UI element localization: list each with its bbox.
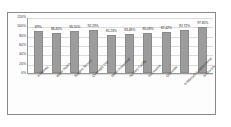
bar[interactable] xyxy=(125,34,134,73)
bar-value-label: 97.85% xyxy=(197,22,208,26)
bar-slot: 89% xyxy=(29,18,47,73)
x-axis-slot: N-Grocery xyxy=(194,75,212,115)
bar[interactable] xyxy=(162,32,171,73)
x-axis-slot: Support Service xyxy=(65,75,83,115)
bar[interactable] xyxy=(70,31,79,73)
bar-value-label: 85.08% xyxy=(142,28,153,32)
y-axis-tick: 20% xyxy=(10,62,26,66)
y-axis-tick: 40% xyxy=(10,53,26,57)
bar[interactable] xyxy=(34,31,43,73)
bar-value-label: 92.72% xyxy=(179,25,190,29)
x-axis: K-MukwaWater RatesSupport ServiceOvernig… xyxy=(27,75,213,115)
bar[interactable] xyxy=(180,30,189,73)
bar-value-label: 90.55% xyxy=(69,26,80,30)
bar-value-label: 87.42% xyxy=(161,27,172,31)
bar[interactable] xyxy=(52,33,61,73)
bar[interactable] xyxy=(89,30,98,73)
y-axis-tick: 80% xyxy=(10,34,26,38)
chart-frame: 120%100%80%60%40%20%0% 89%86.40%90.55%92… xyxy=(7,12,216,115)
y-axis-tick: 120% xyxy=(10,16,26,20)
x-axis-slot: Water Rates xyxy=(46,75,64,115)
y-axis-tick: 0% xyxy=(10,72,26,76)
x-axis-slot: Overnight Trip xyxy=(83,75,101,115)
x-axis-slot: K-Warrant Neighborhood xyxy=(175,75,193,115)
bar-value-label: 81.23% xyxy=(106,30,117,34)
bar-slot: 86.40% xyxy=(47,18,65,73)
x-axis-slot: Recreation xyxy=(138,75,156,115)
x-axis-slot: Meter Household xyxy=(102,75,120,115)
chart-plot-wrapper: 120%100%80%60%40%20%0% 89%86.40%90.55%92… xyxy=(8,13,215,114)
bar-value-label: 89% xyxy=(35,26,42,30)
y-axis-tick: 100% xyxy=(10,25,26,29)
bar-value-label: 86.40% xyxy=(51,28,62,32)
y-axis: 120%100%80%60%40%20%0% xyxy=(10,18,26,74)
bar-value-label: 83.48% xyxy=(124,29,135,33)
bar[interactable] xyxy=(107,35,116,73)
x-axis-slot: Nursery Facility xyxy=(120,75,138,115)
x-axis-slot: K-Mukwa xyxy=(28,75,46,115)
bar-slot: 92.72% xyxy=(175,18,193,73)
x-axis-slot: Gravesite xyxy=(157,75,175,115)
y-axis-tick: 60% xyxy=(10,44,26,48)
bar[interactable] xyxy=(143,33,152,73)
bar-value-label: 92.23% xyxy=(88,25,99,29)
